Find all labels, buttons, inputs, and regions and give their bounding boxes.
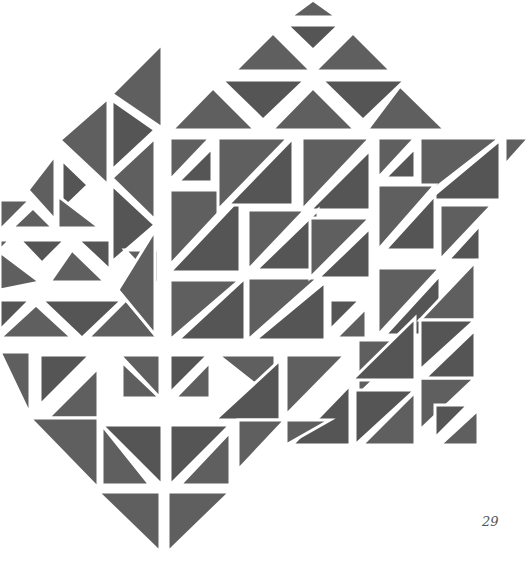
page-number: 29 [482,514,499,529]
tessellation-figure [0,0,529,568]
triangle-tile [0,252,40,290]
triangle-tile [287,25,339,50]
triangle-tile [20,240,65,263]
triangle-tile [290,0,337,17]
triangle-tile [0,352,30,415]
triangle-tile [98,492,160,552]
tile-group [0,0,529,552]
triangle-tile [0,240,10,250]
triangle-tile [505,138,529,165]
triangle-tile [238,420,285,470]
triangle-tile [30,418,98,488]
triangle-tile [58,196,100,228]
triangle-tile [168,492,230,552]
